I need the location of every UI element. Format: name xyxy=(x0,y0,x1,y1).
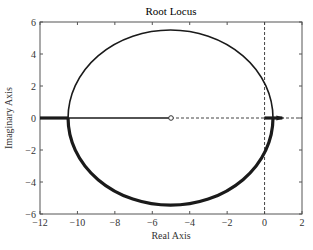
x-tick-label: 0 xyxy=(262,217,267,228)
x-tick-label: 2 xyxy=(300,217,305,228)
y-tick-label: 4 xyxy=(31,49,36,60)
x-tick-label: −8 xyxy=(110,217,121,228)
root-locus-chart: Root Locus −12−10−8−6−4−202−6−4−20246 Re… xyxy=(0,0,313,250)
x-tick-label: −6 xyxy=(147,217,158,228)
y-tick-label: 2 xyxy=(31,81,36,92)
zero-marker-icon xyxy=(169,116,174,121)
x-tick-label: −2 xyxy=(222,217,233,228)
y-tick-label: −6 xyxy=(25,209,36,220)
x-axis-label: Real Axis xyxy=(151,230,190,241)
y-tick-label: 0 xyxy=(31,113,36,124)
y-tick-label: −2 xyxy=(25,145,36,156)
chart-title: Root Locus xyxy=(145,5,196,17)
y-tick-label: −4 xyxy=(25,177,36,188)
x-tick-label: −10 xyxy=(70,217,86,228)
y-tick-label: 6 xyxy=(31,17,36,28)
y-axis-label: Imaginary Axis xyxy=(3,87,14,149)
x-tick-label: −4 xyxy=(184,217,195,228)
